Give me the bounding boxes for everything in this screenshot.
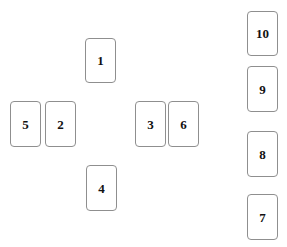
card-label-5: 5 [22,118,29,131]
card-label-10: 10 [256,27,269,40]
card-label-6: 6 [180,118,187,131]
card-label-8: 8 [259,148,266,161]
card-9[interactable]: 9 [247,66,278,112]
card-7[interactable]: 7 [247,194,278,240]
card-6[interactable]: 6 [168,101,199,147]
card-label-2: 2 [57,118,64,131]
card-3[interactable]: 3 [135,101,166,147]
card-1[interactable]: 1 [85,38,116,83]
card-label-1: 1 [97,54,104,67]
card-label-4: 4 [98,182,105,195]
card-label-3: 3 [147,118,154,131]
card-2[interactable]: 2 [45,101,76,147]
card-board: 1 5 2 3 6 4 10 9 8 7 [0,0,287,247]
card-label-7: 7 [259,211,266,224]
card-4[interactable]: 4 [86,165,117,211]
card-10[interactable]: 10 [247,11,278,56]
card-5[interactable]: 5 [10,101,41,147]
card-label-9: 9 [259,83,266,96]
card-8[interactable]: 8 [247,131,278,177]
